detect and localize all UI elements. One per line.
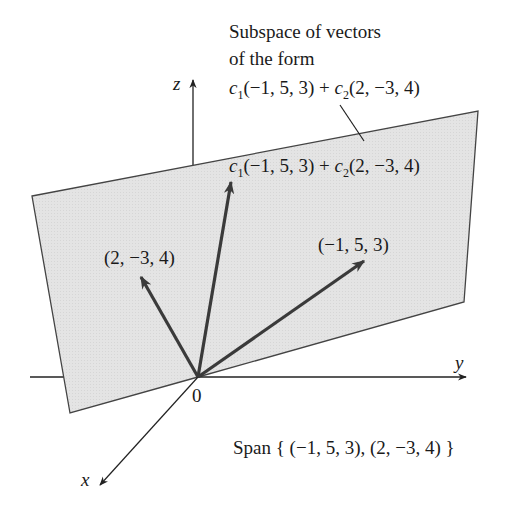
vector-v1-label: (−1, 5, 3) [318, 235, 389, 254]
annotation-line-2: of the form [229, 49, 314, 68]
vector-v2-label: (2, −3, 4) [104, 248, 175, 267]
z-axis-label: z [173, 74, 180, 93]
y-axis-label: y [455, 353, 463, 372]
expr-mid: (−1, 5, 3) + [243, 77, 334, 98]
origin-label: 0 [192, 386, 202, 405]
combo-c2: c [335, 155, 343, 176]
combo-mid: (−1, 5, 3) + [243, 155, 334, 176]
combo-end: (2, −3, 4) [349, 155, 420, 176]
expr-end: (2, −3, 4) [349, 77, 420, 98]
annotation-expression: c1(−1, 5, 3) + c2(2, −3, 4) [229, 78, 420, 101]
coef-c2: c [335, 77, 343, 98]
diagram-canvas: Subspace of vectors of the form c1(−1, 5… [0, 0, 529, 516]
x-axis-label: x [81, 470, 89, 489]
annotation-line-1: Subspace of vectors [229, 22, 381, 41]
span-label: Span { (−1, 5, 3), (2, −3, 4) } [233, 438, 455, 457]
combo-vector-label: c1(−1, 5, 3) + c2(2, −3, 4) [229, 156, 420, 179]
